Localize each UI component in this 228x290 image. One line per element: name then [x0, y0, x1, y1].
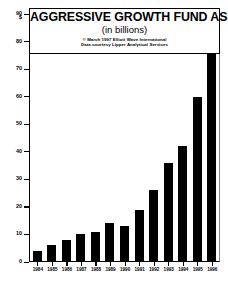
y-axis-tick-mark [24, 262, 29, 263]
bar [178, 146, 187, 262]
chart-title: AGGRESSIVE GROWTH FUND ASSETS [30, 10, 219, 24]
x-axis-tick-mark [183, 262, 184, 266]
y-axis-tick-label: 90 [16, 10, 22, 16]
chart-subtitle: (in billions) [30, 24, 219, 35]
bar [149, 190, 158, 262]
x-axis-tick-mark [66, 262, 67, 266]
y-axis-tick-label: 30 [16, 175, 22, 181]
x-axis-tick-mark [81, 262, 82, 266]
y-axis-tick-label: 20 [16, 203, 22, 209]
x-axis-tick-mark [125, 262, 126, 266]
y-axis-tick-label: 0 [19, 258, 22, 264]
x-axis-tick-mark [168, 262, 169, 266]
title-block: AGGRESSIVE GROWTH FUND ASSETS (in billio… [29, 8, 220, 54]
y-axis-tick-mark [24, 206, 29, 207]
y-axis-tick-mark [24, 179, 29, 180]
bar [47, 245, 56, 262]
x-axis: 1984198519861987198819891990199119921993… [30, 262, 219, 290]
y-axis-tick-mark [24, 69, 29, 70]
x-axis-tick-mark [212, 262, 213, 266]
y-axis-tick-label: 70 [16, 65, 22, 71]
bar [120, 226, 129, 262]
y-axis-tick-mark [24, 151, 29, 152]
y-axis-tick-label: 10 [16, 230, 22, 236]
bar [105, 223, 114, 262]
y-axis-tick-mark [24, 96, 29, 97]
y-axis-tick-mark [24, 124, 29, 125]
bar [135, 210, 144, 262]
y-axis-tick-label: 80 [16, 38, 22, 44]
y-axis: $ 0102030405060708090 [0, 14, 29, 262]
y-axis-tick-mark [24, 234, 29, 235]
x-axis-tick-mark [154, 262, 155, 266]
bar [33, 251, 42, 262]
x-axis-tick-mark [37, 262, 38, 266]
bar [164, 163, 173, 262]
bar [207, 28, 216, 262]
x-axis-tick-mark [139, 262, 140, 266]
x-axis-tick-mark [52, 262, 53, 266]
bar [62, 240, 71, 262]
y-axis-tick-label: 50 [16, 120, 22, 126]
x-axis-tick-mark [110, 262, 111, 266]
credit-data-source: Data courtesy Lipper Analytical Services [30, 42, 219, 47]
y-axis-tick-label: 40 [16, 148, 22, 154]
bar [91, 232, 100, 262]
y-axis-tick-label: 60 [16, 93, 22, 99]
x-axis-tick-mark [197, 262, 198, 266]
bar [193, 97, 202, 262]
x-axis-tick-label: 1996 [203, 267, 221, 272]
x-axis-tick-mark [95, 262, 96, 266]
bar [76, 234, 85, 262]
chart-figure: $ 0102030405060708090 198419851986198719… [0, 0, 228, 290]
